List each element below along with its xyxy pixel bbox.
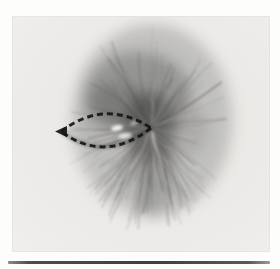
bottom-rule (8, 261, 270, 264)
aster-with-dashed-outline-drawing (0, 0, 280, 269)
figure-page (0, 0, 280, 269)
